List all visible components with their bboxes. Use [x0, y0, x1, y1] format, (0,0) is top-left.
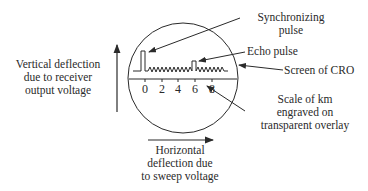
label-line: output voltage — [6, 84, 110, 97]
sync-pulse-label: Synchronizing pulse — [246, 11, 336, 37]
label-line: deflection due — [130, 157, 230, 170]
label-line: pulse — [246, 24, 336, 37]
echo-pulse-pointer — [199, 52, 245, 61]
screen-pointer — [239, 65, 283, 70]
scale-tick-label: 4 — [175, 82, 181, 96]
label-line: due to receiver — [6, 71, 110, 84]
sync-pulse-pointer — [149, 18, 240, 52]
vertical-deflection-label: Vertical deflection due to receiver outp… — [6, 58, 110, 97]
label-line: Screen of CRO — [284, 64, 354, 77]
label-line: engraved on — [246, 106, 364, 119]
scale-tick-label: 6 — [192, 82, 198, 96]
label-line: Echo pulse — [247, 45, 298, 58]
horizontal-deflection-label: Horizontal deflection due to sweep volta… — [130, 144, 230, 183]
screen-label: Screen of CRO — [284, 64, 354, 77]
echo-pulse-label: Echo pulse — [247, 45, 298, 58]
label-line: Vertical deflection — [6, 58, 110, 71]
scale-pointer — [207, 86, 245, 111]
scale-tick-label: 0 — [142, 82, 148, 96]
trace-waveform — [133, 51, 228, 72]
scale-tick-label: 2 — [159, 82, 165, 96]
label-line: to sweep voltage — [130, 170, 230, 183]
label-line: Synchronizing — [246, 11, 336, 24]
scale-label: Scale of km engraved on transparent over… — [246, 93, 364, 132]
label-line: Horizontal — [130, 144, 230, 157]
label-line: Scale of km — [246, 93, 364, 106]
label-line: transparent overlay — [246, 119, 364, 132]
